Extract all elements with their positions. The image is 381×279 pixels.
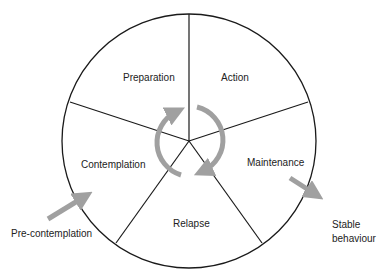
stage-label-maintenance: Maintenance [247, 157, 304, 168]
entry-arrow-icon [48, 197, 84, 219]
stage-label-contemplation: Contemplation [81, 159, 145, 170]
exit-label-line2: behaviour [332, 232, 376, 246]
stage-label-relapse: Relapse [173, 218, 210, 229]
entry-label-pre-contemplation: Pre-contemplation [11, 228, 92, 239]
exit-arrow-icon [290, 178, 315, 194]
stage-label-preparation: Preparation [123, 72, 175, 83]
exit-label-stable-behaviour: Stable behaviour [332, 218, 376, 246]
exit-label-line1: Stable [332, 218, 376, 232]
stage-label-action: Action [221, 72, 249, 83]
segment-dividers [70, 14, 308, 243]
